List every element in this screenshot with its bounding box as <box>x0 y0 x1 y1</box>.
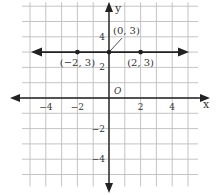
y-axis-down-arrow-icon <box>105 183 113 193</box>
point-label: (−2, 3) <box>60 57 95 68</box>
y-tick-label: −4 <box>92 154 106 164</box>
line-left-arrow-icon <box>31 48 42 57</box>
origin-label: O <box>114 86 122 96</box>
point-label: (0, 3) <box>113 25 140 36</box>
point-labels: (−2, 3)(0, 3)(2, 3) <box>60 25 154 68</box>
series-lines <box>31 48 189 57</box>
data-point <box>75 50 80 55</box>
x-tick-label: 2 <box>138 102 144 112</box>
coordinate-plane: −4−22442−2−4 (−2, 3)(0, 3)(2, 3) x y O <box>0 0 220 195</box>
line-right-arrow-icon <box>178 48 189 57</box>
y-tick-label: 2 <box>99 62 105 72</box>
x-tick-label: 4 <box>169 102 175 112</box>
x-tick-label: −2 <box>71 102 84 112</box>
leader-line <box>110 38 122 51</box>
x-tick-label: −4 <box>39 102 53 112</box>
data-point <box>138 50 143 55</box>
y-tick-label: 4 <box>99 32 105 42</box>
y-tick-label: −2 <box>92 124 105 134</box>
grid-lines <box>22 2 198 186</box>
x-axis-left-arrow-icon <box>10 94 20 102</box>
y-axis-up-arrow-icon <box>105 2 113 12</box>
axes <box>10 2 210 193</box>
point-label: (2, 3) <box>127 57 154 68</box>
x-axis-label: x <box>203 98 210 111</box>
y-axis-label: y <box>114 2 122 15</box>
